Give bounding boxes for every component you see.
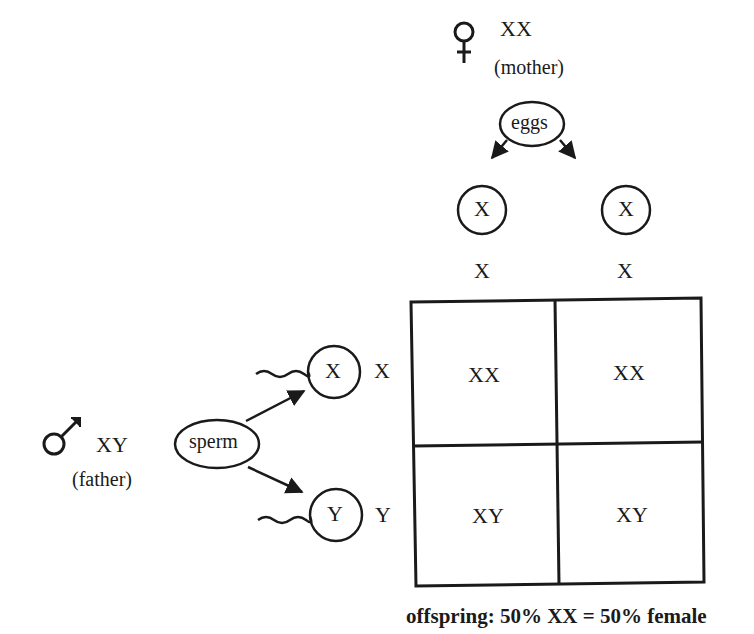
column-header-1: X xyxy=(474,258,490,284)
eggs-label: eggs xyxy=(511,111,548,134)
arrow-sperm-down xyxy=(248,467,302,492)
sperm-gamete-x: X xyxy=(325,358,341,384)
mother-genotype: XX xyxy=(500,16,532,42)
arrow-sperm-up xyxy=(246,391,304,421)
sperm-tail-x xyxy=(256,371,309,377)
punnett-grid xyxy=(411,298,704,586)
offspring-caption: offspring: 50% XX = 50% female xyxy=(406,604,707,629)
sperm-tail-y xyxy=(258,517,311,523)
punnett-cell-1-1: XX xyxy=(414,362,554,388)
arrow-egg-right xyxy=(560,140,575,158)
diagram-lines xyxy=(0,0,754,634)
punnett-cell-2-1: XY xyxy=(418,503,558,529)
father-label: (father) xyxy=(72,468,132,491)
male-symbol-icon xyxy=(44,418,80,454)
egg-gamete-1: X xyxy=(474,196,490,222)
sperm-gamete-y: Y xyxy=(327,501,343,527)
father-genotype: XY xyxy=(96,432,128,458)
mother-label: (mother) xyxy=(494,56,564,79)
row-header-1: X xyxy=(374,358,390,384)
row-header-2: Y xyxy=(375,502,391,528)
arrow-egg-left xyxy=(492,140,507,158)
female-symbol-icon xyxy=(455,23,473,63)
punnett-cell-1-2: XX xyxy=(559,360,699,386)
sperm-label: sperm xyxy=(189,430,238,453)
punnett-cell-2-2: XY xyxy=(562,502,702,528)
column-header-2: X xyxy=(617,258,633,284)
egg-gamete-2: X xyxy=(618,196,634,222)
